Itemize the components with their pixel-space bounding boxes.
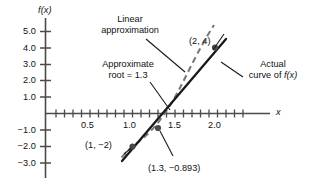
linear-approximation-series xyxy=(122,39,226,161)
point-label-1-neg2: (1, −2) xyxy=(85,140,112,150)
axes-group xyxy=(46,18,271,178)
point-label-13-neg0893: (1.3, −0.893) xyxy=(148,163,200,173)
y-tick-label-5: 5.0 xyxy=(4,26,36,37)
y-tick-label-4: 4.0 xyxy=(4,43,36,54)
y-tick-label-neg1: −1.0 xyxy=(2,125,36,136)
annotation-actual-curve-line2-prefix: curve of xyxy=(249,70,284,80)
annotation-actual-curve-fx: f(x) xyxy=(284,70,297,80)
annotation-approximate-root: Approximate root = 1.3 xyxy=(85,59,171,81)
leader-line-approximate-root xyxy=(150,82,170,110)
y-tick-label-1: 1.0 xyxy=(4,92,36,103)
x-tick-label-15: 1.5 xyxy=(168,120,181,131)
y-axis-label: f(x) xyxy=(38,5,52,16)
point-label-2-4: (2, 4) xyxy=(189,36,210,46)
annotation-linear-approximation: Linear approximation xyxy=(89,14,171,36)
y-tick-label-3: 3.0 xyxy=(4,59,36,70)
x-axis-label: x xyxy=(276,107,281,118)
figure-root: f(x) x 5.0 4.0 3.0 2.0 1.0 −1.0 −2.0 −3.… xyxy=(0,0,314,190)
marker-point-13-neg0893 xyxy=(155,125,161,131)
annotation-actual-curve-line2: curve of f(x) xyxy=(236,70,310,81)
x-tick-label-05: 0.5 xyxy=(81,120,94,131)
y-tick-label-2: 2.0 xyxy=(4,75,36,86)
x-tick-label-10: 1.0 xyxy=(123,120,136,131)
annotation-approximate-root-line2: root = 1.3 xyxy=(85,70,171,81)
annotation-linear-approximation-line1: Linear xyxy=(89,14,171,25)
annotation-approximate-root-line1: Approximate xyxy=(85,59,171,70)
leader-line-point-13-neg0893 xyxy=(160,131,173,156)
annotation-actual-curve: Actual curve of f(x) xyxy=(236,59,310,81)
annotation-linear-approximation-line2: approximation xyxy=(89,25,171,36)
annotation-actual-curve-line1: Actual xyxy=(236,59,310,70)
y-tick-label-neg3: −3.0 xyxy=(2,158,36,169)
y-tick-label-neg2: −2.0 xyxy=(2,141,36,152)
x-tick-label-20: 2.0 xyxy=(208,120,221,131)
